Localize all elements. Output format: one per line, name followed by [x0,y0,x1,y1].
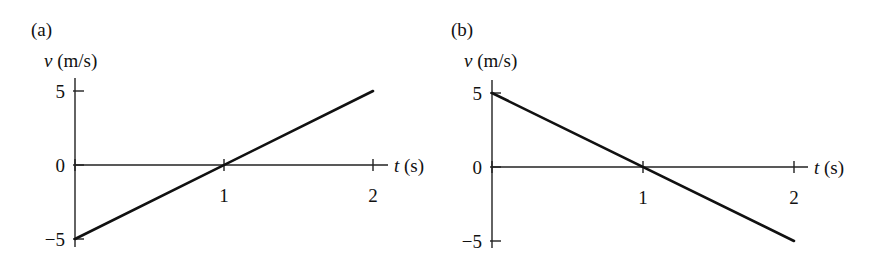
x-axis-var: t [814,157,820,178]
y-tick-label: 5 [473,83,483,104]
y-axis-label: v (m/s) [464,50,517,72]
y-axis-unit: (m/s) [57,50,97,72]
y-tick-label: −5 [45,229,65,250]
y-tick-label: 0 [473,157,483,178]
figure: (a) v (m/s) 50−5 12 t (s) (b) v (m/s) 50… [0,0,887,263]
y-tick-label: −5 [462,231,482,252]
x-tick-label: 2 [368,185,378,206]
x-tick-label: 1 [219,185,229,206]
x-tick-label: 1 [638,187,648,208]
x-tick-label: 2 [789,187,799,208]
x-axis-var: t [394,155,400,176]
x-axis-unit: (s) [824,157,844,179]
x-axis-label: t (s) [814,157,844,179]
y-tick-label: 5 [56,81,66,102]
panel-a: (a) v (m/s) 50−5 12 t (s) [31,19,424,250]
y-tick-label: 0 [56,155,66,176]
y-axis-label: v (m/s) [44,50,97,72]
y-axis-unit: (m/s) [477,50,517,72]
x-axis-label: t (s) [394,155,424,177]
panel-label: (b) [451,19,473,41]
y-axis-var: v [464,50,473,71]
x-axis-unit: (s) [404,155,424,177]
panel-label: (a) [31,19,52,41]
y-axis-var: v [44,50,53,71]
panel-b: (b) v (m/s) 50−5 12 t (s) [451,19,844,252]
